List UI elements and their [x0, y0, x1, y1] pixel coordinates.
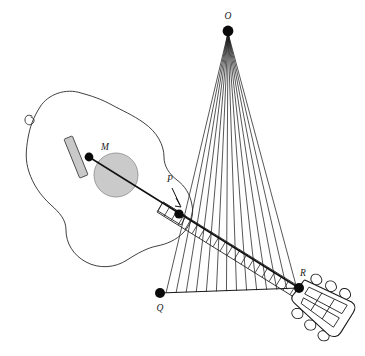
fan-line — [228, 33, 267, 290]
point-Q — [155, 288, 165, 298]
label-R: R — [299, 268, 306, 278]
fan-line — [206, 33, 228, 292]
baseline-QR — [160, 288, 299, 293]
fan-line — [176, 33, 228, 293]
headstock-group — [281, 267, 362, 347]
fan-line — [228, 33, 287, 289]
point-P — [174, 209, 183, 218]
fan-line — [186, 33, 228, 292]
guitar-geometry-diagram: OMPQR — [0, 0, 365, 356]
point-M — [85, 153, 94, 162]
label-O: O — [225, 11, 232, 21]
label-Q: Q — [157, 303, 164, 313]
guitar-soundhole — [94, 153, 138, 197]
point-O — [223, 26, 234, 37]
label-M: M — [100, 142, 110, 152]
fan-line — [228, 33, 247, 291]
label-P: P — [166, 174, 173, 184]
fan-line — [166, 33, 228, 293]
point-R — [294, 283, 304, 293]
fan-line — [226, 33, 228, 291]
figure-canvas: OMPQR — [0, 0, 365, 356]
fan-lines-group — [166, 33, 297, 293]
